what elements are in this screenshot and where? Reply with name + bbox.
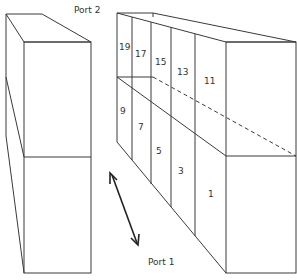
double-arrow-icon [110,173,139,245]
cell-label-7: 7 [138,122,144,132]
right-box-front-face [226,42,296,273]
right-box-hidden-edge [153,77,296,156]
left-box-top-face [6,14,91,42]
left-box [6,14,91,273]
cell-label-17: 17 [135,49,146,59]
cell-label-19: 19 [119,42,131,52]
cell-label-11: 11 [204,76,215,86]
cell-label-15: 15 [155,57,166,67]
right-box-top-back-edge [117,13,296,42]
port-1-label: Port 1 [148,257,174,267]
horn-array-diagram: 19 17 15 13 11 9 7 5 3 1 Port 2 Port 1 [0,0,297,280]
port-2-label: Port 2 [74,5,100,15]
cell-label-1: 1 [208,189,214,199]
left-box-side-divider [6,77,24,157]
cell-label-9: 9 [120,106,126,116]
cell-label-3: 3 [178,166,184,176]
left-box-back-edge-lower [6,136,24,273]
cell-labels: 19 17 15 13 11 9 7 5 3 1 [119,42,215,199]
cell-label-13: 13 [177,67,188,77]
cell-label-5: 5 [156,146,162,156]
